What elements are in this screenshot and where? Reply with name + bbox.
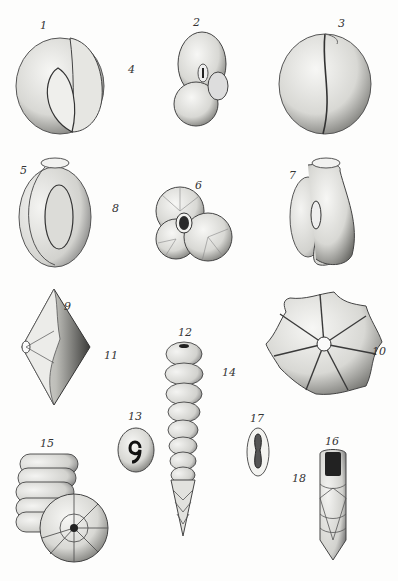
figure-label-6: 6 — [195, 180, 202, 191]
figure-2-specimen — [172, 30, 232, 130]
figure-13-specimen — [116, 426, 156, 474]
figure-label-11: 11 — [104, 350, 118, 361]
figure-label-17: 17 — [250, 413, 264, 424]
figure-label-3: 3 — [338, 18, 345, 29]
figure-7-specimen — [286, 155, 366, 270]
figure-9-specimen — [14, 287, 94, 407]
figure-label-12: 12 — [178, 327, 192, 338]
figure-15-specimen — [14, 450, 104, 566]
figure-label-2: 2 — [193, 17, 200, 28]
figure-17-specimen — [246, 426, 270, 478]
figure-label-1: 1 — [40, 20, 47, 31]
figure-label-10: 10 — [372, 346, 386, 357]
figure-label-5: 5 — [20, 165, 27, 176]
figure-label-7: 7 — [289, 170, 296, 181]
figure-label-14: 14 — [222, 367, 236, 378]
figure-label-13: 13 — [128, 411, 142, 422]
figure-5-specimen — [15, 155, 95, 270]
figure-1-specimen — [12, 28, 112, 138]
figure-16-specimen — [316, 448, 350, 562]
figure-3-specimen — [275, 26, 375, 136]
figure-10-specimen — [266, 290, 380, 398]
figure-6-specimen — [152, 185, 234, 265]
figure-label-4: 4 — [128, 64, 135, 75]
figure-label-18: 18 — [292, 473, 306, 484]
figure-label-8: 8 — [112, 203, 119, 214]
figure-12-specimen — [162, 340, 206, 540]
figure-label-9: 9 — [64, 301, 71, 312]
illustration-plate: 1 2 4 3 5 8 6 — [0, 0, 398, 581]
figure-label-16: 16 — [325, 436, 339, 447]
figure-label-15: 15 — [40, 438, 54, 449]
